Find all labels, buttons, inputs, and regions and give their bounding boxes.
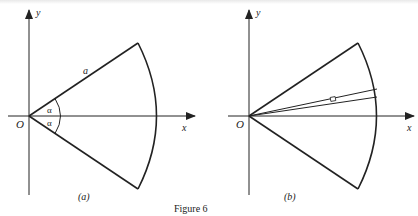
area-element-box bbox=[330, 97, 336, 102]
panel-label-a: (a) bbox=[78, 191, 90, 203]
y-axis-label: y bbox=[35, 7, 41, 18]
panel-b: y x O (b) bbox=[228, 7, 414, 203]
y-axis-label: y bbox=[255, 7, 261, 18]
x-axis-label: x bbox=[406, 122, 412, 133]
sector-upper-radius bbox=[249, 43, 358, 116]
sector-lower-radius bbox=[29, 116, 138, 189]
radius-label: a bbox=[83, 65, 88, 76]
sector-upper-radius bbox=[29, 43, 138, 116]
angle-label-upper: α bbox=[47, 105, 52, 115]
x-axis-label: x bbox=[181, 122, 187, 133]
panel-label-b: (b) bbox=[284, 191, 296, 203]
origin-label: O bbox=[236, 118, 244, 130]
angle-label-lower: α bbox=[47, 118, 52, 128]
figure-6: y x O a α α (a) y x O (b) Figure 6 bbox=[0, 0, 418, 216]
sector-lower-radius bbox=[249, 116, 358, 189]
origin-label: O bbox=[16, 118, 24, 130]
panel-a: y x O a α α (a) bbox=[8, 7, 195, 203]
figure-caption: Figure 6 bbox=[174, 203, 208, 214]
strip-lower-ray bbox=[249, 97, 377, 116]
